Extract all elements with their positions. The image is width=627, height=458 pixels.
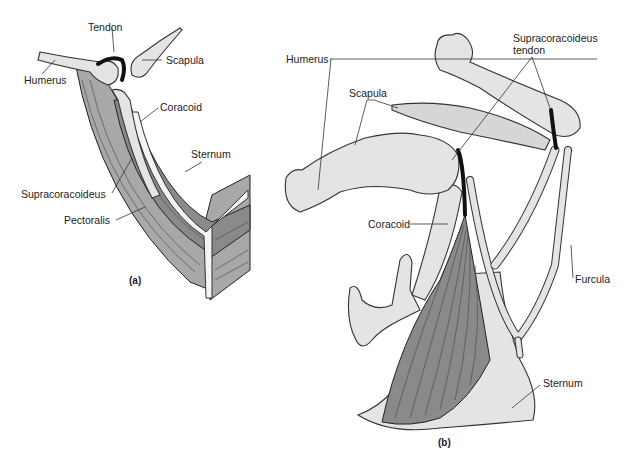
label-humerus-a: Humerus [24, 74, 67, 86]
label-supracoracoideus-tendon-b-2: tendon [513, 44, 545, 56]
label-scapula-b: Scapula [349, 87, 387, 99]
label-sternum-b: Sternum [543, 377, 583, 389]
sternal-process [348, 254, 420, 346]
label-furcula-b: Furcula [575, 273, 610, 285]
label-pectoralis-a: Pectoralis [64, 214, 110, 226]
panel-b-drawing [285, 33, 597, 429]
label-supracoracoideus-a: Supracoracoideus [21, 188, 106, 200]
caption-b: (b) [438, 437, 451, 448]
label-coracoid-b: Coracoid [368, 218, 410, 230]
label-sternum-a: Sternum [191, 148, 231, 160]
anatomy-illustration [0, 0, 627, 458]
caption-a: (a) [129, 275, 141, 286]
label-coracoid-a: Coracoid [160, 101, 202, 113]
panel-a-drawing [38, 28, 250, 300]
label-tendon-a: Tendon [88, 21, 122, 33]
label-supracoracoideus-tendon-b-1: Supracoracoideus [513, 32, 598, 44]
scapula-a [131, 28, 182, 77]
humerus-b-lower [285, 133, 459, 212]
label-scapula-a: Scapula [166, 54, 204, 66]
label-humerus-b: Humerus [286, 53, 329, 65]
